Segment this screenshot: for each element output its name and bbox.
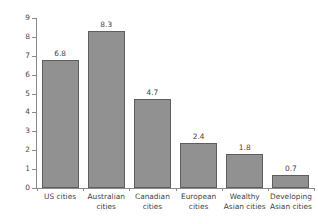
- y-tick-label: 4: [25, 107, 30, 116]
- bar-value-label: 4.7: [147, 88, 159, 97]
- bar-value-label: 2.4: [193, 132, 205, 141]
- bar-slot: 6.8: [42, 18, 79, 188]
- y-tick-mark: [32, 169, 36, 170]
- x-category-label: US cities: [37, 192, 83, 202]
- bar[interactable]: [42, 60, 79, 188]
- x-category-label-line: Canadian: [129, 192, 175, 202]
- x-category-label: DevelopingAsian cities: [268, 192, 314, 211]
- x-tick-mark: [222, 188, 223, 191]
- x-tick-mark: [83, 188, 84, 191]
- x-axis-category-labels: US citiesAustraliancitiesCanadiancitiesE…: [37, 192, 314, 222]
- bar-slot: 1.8: [226, 18, 263, 188]
- y-tick-mark: [32, 94, 36, 95]
- x-category-label: WealthyAsian cities: [222, 192, 268, 211]
- bar[interactable]: [88, 31, 125, 188]
- bar-slot: 8.3: [88, 18, 125, 188]
- y-tick-label: 7: [25, 51, 30, 60]
- x-category-label-line: Developing: [268, 192, 314, 202]
- x-category-label-line: Australian: [83, 192, 129, 202]
- x-category-label: Europeancities: [176, 192, 222, 211]
- bar-slot: 0.7: [272, 18, 309, 188]
- x-category-label-line: Wealthy: [222, 192, 268, 202]
- bar[interactable]: [272, 175, 309, 188]
- bar[interactable]: [134, 99, 171, 188]
- y-tick-mark: [32, 75, 36, 76]
- x-tick-mark: [268, 188, 269, 191]
- bar-slot: 4.7: [134, 18, 171, 188]
- y-tick-label: 0: [25, 183, 30, 192]
- x-category-label-line: US cities: [37, 192, 83, 202]
- bar-value-label: 0.7: [285, 164, 297, 173]
- y-tick-mark: [32, 188, 36, 189]
- y-tick-label: 6: [25, 70, 30, 79]
- bar-slot: 2.4: [180, 18, 217, 188]
- y-tick-mark: [32, 37, 36, 38]
- bar-value-label: 8.3: [100, 20, 112, 29]
- x-category-label-line: cities: [83, 202, 129, 212]
- y-tick-mark: [32, 150, 36, 151]
- x-category-label-line: cities: [176, 202, 222, 212]
- y-tick-label: 5: [25, 89, 30, 98]
- y-tick-label: 3: [25, 126, 30, 135]
- y-tick-mark: [32, 112, 36, 113]
- bar-value-label: 6.8: [54, 49, 66, 58]
- bar[interactable]: [226, 154, 263, 188]
- bar-chart: Metres of road per person 0123456789 6.8…: [0, 0, 318, 224]
- x-tick-mark: [314, 188, 315, 191]
- bar[interactable]: [180, 143, 217, 188]
- y-tick-mark: [32, 131, 36, 132]
- x-tick-mark: [129, 188, 130, 191]
- plot-area: 0123456789 6.88.34.72.41.80.7: [36, 18, 314, 188]
- y-tick-mark: [32, 18, 36, 19]
- x-category-label: Australiancities: [83, 192, 129, 211]
- y-tick-mark: [32, 56, 36, 57]
- x-category-label-line: European: [176, 192, 222, 202]
- x-category-label-line: Asian cities: [268, 202, 314, 212]
- x-category-label: Canadiancities: [129, 192, 175, 211]
- x-tick-mark: [176, 188, 177, 191]
- y-tick-label: 9: [25, 13, 30, 22]
- y-tick-label: 8: [25, 32, 30, 41]
- y-tick-label: 1: [25, 164, 30, 173]
- bar-series: 6.88.34.72.41.80.7: [37, 18, 314, 188]
- bar-value-label: 1.8: [239, 143, 251, 152]
- x-category-label-line: cities: [129, 202, 175, 212]
- y-tick-label: 2: [25, 145, 30, 154]
- x-tick-mark: [37, 188, 38, 191]
- x-category-label-line: Asian cities: [222, 202, 268, 212]
